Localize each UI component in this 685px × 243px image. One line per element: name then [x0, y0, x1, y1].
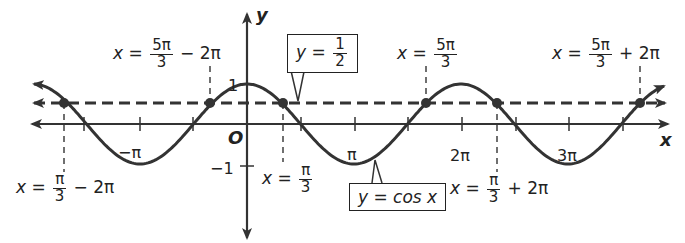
tick-y-one: 1	[228, 76, 238, 95]
tick-two-pi: 2π	[450, 146, 470, 165]
annotation-pi3-minus-2pi: x = π3 − 2π	[16, 172, 114, 205]
callout-y-cos-x: y = cos x	[349, 183, 446, 211]
annotation-pi3-plus-2pi: x = π3 + 2π	[450, 173, 548, 206]
annotation-pi3: x = π3	[262, 163, 314, 196]
tick-neg-pi: −π	[118, 143, 141, 162]
tick-three-pi: 3π	[557, 146, 577, 165]
annotation-5pi3-plus-2pi: x = 5π3 + 2π	[552, 38, 660, 71]
origin-label: O	[228, 127, 243, 148]
callout-y-half: y = 12	[287, 34, 358, 73]
y-axis-label: y	[256, 4, 268, 25]
tick-pi: π	[347, 145, 357, 164]
x-axis-label: x	[660, 129, 672, 150]
annotation-5pi3-minus-2pi: x = 5π3 − 2π	[113, 38, 221, 71]
tick-y-neg-one: −1	[210, 159, 234, 178]
callout-curve-pointer	[372, 160, 382, 183]
annotation-5pi3: x = 5π3	[397, 38, 459, 71]
